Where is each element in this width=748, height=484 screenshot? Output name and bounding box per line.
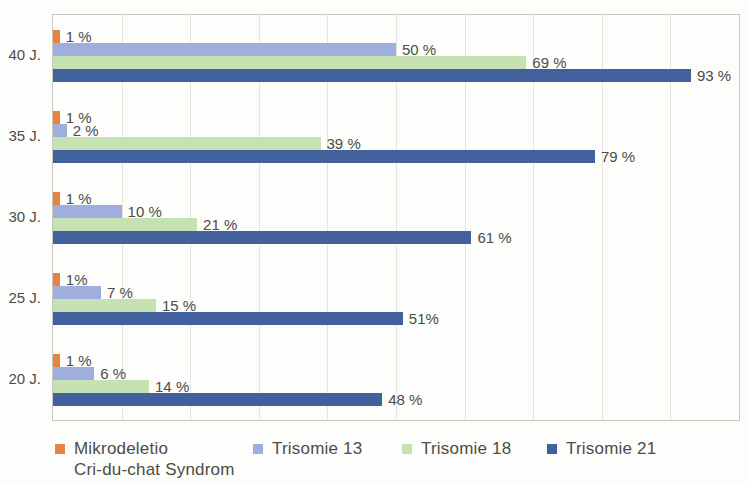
bar-line: 61 %: [53, 231, 739, 244]
plot-area: 1 %50 %69 %93 %1 %2 %39 %79 %1 %10 %21 %…: [52, 14, 740, 421]
bar-series-0: [53, 111, 60, 124]
bar-value-label: 50 %: [402, 43, 436, 56]
bar-value-label: 1 %: [66, 30, 92, 43]
legend-label-trisomie-18: Trisomie 18: [421, 438, 511, 459]
bar-value-label: 61 %: [477, 231, 511, 244]
legend-marker-trisomie-18-icon: [402, 444, 412, 454]
bar-value-label: 2 %: [73, 124, 99, 137]
bar-line: 1%: [53, 273, 739, 286]
bar-group: 1 %50 %69 %93 %: [53, 15, 739, 96]
bar-line: 10 %: [53, 205, 739, 218]
bar-line: 15 %: [53, 299, 739, 312]
bar-series-3: [53, 393, 382, 406]
bar-line: 21 %: [53, 218, 739, 231]
legend-label-trisomie-21: Trisomie 21: [566, 438, 656, 459]
bar-value-label: 51%: [409, 312, 439, 325]
bar-series-1: [53, 205, 122, 218]
bar-line: 7 %: [53, 286, 739, 299]
bar-value-label: 15 %: [162, 299, 196, 312]
bar-line: 48 %: [53, 393, 739, 406]
legend-marker-mikrodeletio-icon: [55, 444, 65, 454]
bar-value-label: 48 %: [388, 393, 422, 406]
legend-label-mikrodeletio: Mikrodeletio Cri-du-chat Syndrom: [74, 438, 235, 480]
bar-series-0: [53, 192, 60, 205]
bar-line: 93 %: [53, 69, 739, 82]
bar-series-3: [53, 150, 595, 163]
legend: Mikrodeletio Cri-du-chat Syndrom Trisomi…: [0, 438, 748, 484]
bar-value-label: 39 %: [327, 137, 361, 150]
legend-label-trisomie-13: Trisomie 13: [272, 438, 362, 459]
legend-label-line1: Mikrodeletio: [74, 439, 168, 458]
bar-value-label: 79 %: [601, 150, 635, 163]
bar-value-label: 1 %: [66, 354, 92, 367]
legend-item-trisomie-18: Trisomie 18: [402, 438, 511, 459]
bar-value-label: 69 %: [532, 56, 566, 69]
bar-series-1: [53, 367, 94, 380]
bar-series-0: [53, 30, 60, 43]
bar-series-3: [53, 231, 471, 244]
bar-line: 39 %: [53, 137, 739, 150]
bar-line: 1 %: [53, 30, 739, 43]
bar-value-label: 1 %: [66, 192, 92, 205]
y-axis-label: 40 J.: [0, 14, 45, 95]
y-axis-label: 35 J.: [0, 95, 45, 176]
legend-label-line2: Cri-du-chat Syndrom: [74, 460, 235, 479]
bar-line: 1 %: [53, 111, 739, 124]
legend-marker-trisomie-13-icon: [253, 444, 263, 454]
bar-line: 2 %: [53, 124, 739, 137]
y-axis-label: 30 J.: [0, 176, 45, 257]
y-axis-labels: 40 J.35 J.30 J.25 J.20 J.: [0, 14, 45, 419]
legend-item-trisomie-21: Trisomie 21: [547, 438, 656, 459]
bar-group: 1 %6 %14 %48 %: [53, 339, 739, 420]
bar-value-label: 1%: [66, 273, 88, 286]
bar-value-label: 6 %: [100, 367, 126, 380]
bar-series-2: [53, 380, 149, 393]
bar-line: 79 %: [53, 150, 739, 163]
bar-value-label: 93 %: [697, 69, 731, 82]
bar-line: 1 %: [53, 354, 739, 367]
legend-item-mikrodeletio: Mikrodeletio Cri-du-chat Syndrom: [55, 438, 235, 480]
bar-series-2: [53, 299, 156, 312]
bar-value-label: 10 %: [128, 205, 162, 218]
bar-group: 1 %10 %21 %61 %: [53, 177, 739, 258]
legend-marker-trisomie-21-icon: [547, 444, 557, 454]
bar-line: 51%: [53, 312, 739, 325]
bar-line: 50 %: [53, 43, 739, 56]
bar-series-2: [53, 218, 197, 231]
y-axis-label: 20 J.: [0, 338, 45, 419]
bar-rows: 1 %50 %69 %93 %1 %2 %39 %79 %1 %10 %21 %…: [53, 15, 739, 420]
bar-group: 1%7 %15 %51%: [53, 258, 739, 339]
risk-by-age-bar-chart: 40 J.35 J.30 J.25 J.20 J. 1 %50 %69 %93 …: [0, 0, 748, 484]
bar-value-label: 7 %: [107, 286, 133, 299]
bar-line: 69 %: [53, 56, 739, 69]
bar-value-label: 14 %: [155, 380, 189, 393]
bar-group: 1 %2 %39 %79 %: [53, 96, 739, 177]
bar-series-0: [53, 354, 60, 367]
bar-series-2: [53, 137, 321, 150]
bar-value-label: 21 %: [203, 218, 237, 231]
bar-series-1: [53, 43, 396, 56]
bar-series-3: [53, 312, 403, 325]
bar-series-1: [53, 124, 67, 137]
bar-series-2: [53, 56, 526, 69]
bar-series-1: [53, 286, 101, 299]
bar-series-0: [53, 273, 60, 286]
bar-series-3: [53, 69, 691, 82]
legend-item-trisomie-13: Trisomie 13: [253, 438, 362, 459]
y-axis-label: 25 J.: [0, 257, 45, 338]
